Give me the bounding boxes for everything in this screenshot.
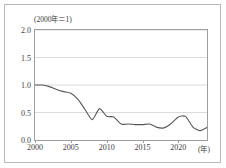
data-line	[35, 85, 207, 131]
y-tick-label: 0.5	[21, 108, 31, 117]
plot-area	[34, 29, 208, 141]
x-tick-label: 2020	[170, 143, 186, 152]
gridlines	[35, 30, 207, 113]
y-tick-label: 2.0	[21, 26, 31, 35]
y-tick-label: 1.5	[21, 53, 31, 62]
chart-figure: (2000年＝1) 0.00.51.01.52.0 20002005201020…	[0, 0, 226, 168]
x-axis-labels: 20002005201020152020(年)	[0, 143, 226, 157]
line-series-svg	[35, 30, 207, 140]
x-tick-mark	[143, 140, 144, 143]
y-tick-label: 1.0	[21, 81, 31, 90]
x-tick-mark	[35, 140, 36, 143]
chart-title: (2000年＝1)	[34, 13, 72, 24]
y-axis-labels: 0.00.51.01.52.0	[0, 29, 31, 141]
x-tick-label: 2000	[27, 143, 43, 152]
x-tick-label: 2015	[135, 143, 151, 152]
x-tick-label: 2005	[63, 143, 79, 152]
x-tick-label: 2010	[99, 143, 115, 152]
x-tick-mark	[71, 140, 72, 143]
x-axis-unit-label: (年)	[198, 143, 210, 154]
x-tick-mark	[178, 140, 179, 143]
x-tick-mark	[107, 140, 108, 143]
